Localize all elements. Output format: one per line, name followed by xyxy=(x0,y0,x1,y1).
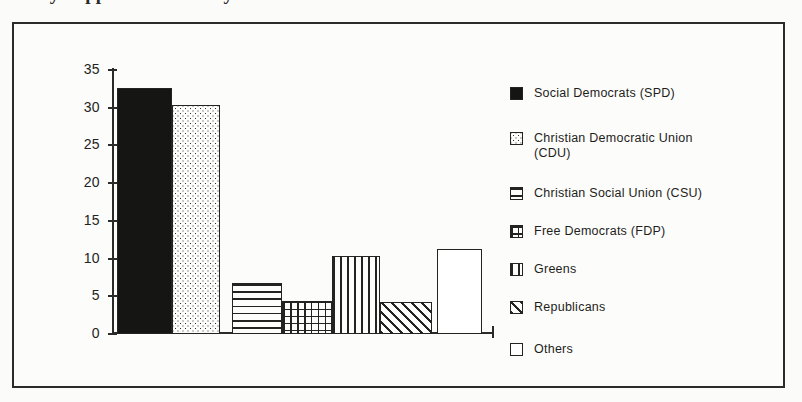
legend-item-label: Greens xyxy=(534,262,577,277)
legend-item-label: Republicans xyxy=(534,300,606,315)
bar-solid xyxy=(117,88,172,334)
page-title-text: Party Support in Germany xyxy=(14,0,233,5)
bar-white xyxy=(437,249,482,334)
legend-item-label: Christian Democratic Union (CDU) xyxy=(534,131,693,161)
bar-grid xyxy=(282,301,332,334)
legend-item-label: Free Democrats (FDP) xyxy=(534,224,665,239)
legend-item-label: Christian Social Union (CSU) xyxy=(534,186,702,201)
legend-swatch-solid-icon xyxy=(510,87,523,100)
legend-item[interactable]: Republicans xyxy=(510,300,606,315)
page-title-remnant: Party Support in Germany xyxy=(0,0,802,20)
legend-item-label: Others xyxy=(534,342,573,357)
y-axis-tick xyxy=(108,69,117,71)
legend-swatch-white-icon xyxy=(510,343,523,356)
legend-swatch-hlines-icon xyxy=(510,187,523,200)
legend-item[interactable]: Christian Democratic Union (CDU) xyxy=(510,131,693,161)
legend-item[interactable]: Free Democrats (FDP) xyxy=(510,224,665,239)
legend-item[interactable]: Others xyxy=(510,342,573,357)
legend-item[interactable]: Greens xyxy=(510,262,577,277)
bar-diag xyxy=(380,302,432,334)
y-axis-tick-label: 5 xyxy=(54,287,100,303)
legend-swatch-diag-icon xyxy=(510,301,523,314)
y-axis-tick xyxy=(108,144,117,146)
y-axis-tick xyxy=(108,295,117,297)
y-axis-tick-label: 0 xyxy=(54,325,100,341)
y-axis-tick xyxy=(108,220,117,222)
legend-swatch-vlines-icon xyxy=(510,263,523,276)
bar-hlines xyxy=(232,283,282,334)
legend-item[interactable]: Christian Social Union (CSU) xyxy=(510,186,702,201)
y-axis-tick xyxy=(108,258,117,260)
legend-swatch-dotted-icon xyxy=(510,132,523,145)
y-axis-tick xyxy=(108,333,117,335)
y-axis-tick-label: 10 xyxy=(54,250,100,266)
y-axis-tick-label: 20 xyxy=(54,174,100,190)
y-axis-tick-label: 15 xyxy=(54,212,100,228)
bar-dotted xyxy=(172,105,220,334)
y-axis-tick-label: 30 xyxy=(54,99,100,115)
x-axis-end-tick xyxy=(492,326,494,338)
y-axis-tick-label: 25 xyxy=(54,136,100,152)
y-axis-tick xyxy=(108,107,117,109)
chart-frame: 35302520151050 Social Democrats (SPD)Chr… xyxy=(12,22,785,388)
bar-vlines xyxy=(332,256,380,334)
legend-item[interactable]: Social Democrats (SPD) xyxy=(510,86,675,101)
y-axis-tick xyxy=(108,182,117,184)
plot-area: 35302520151050 Social Democrats (SPD)Chr… xyxy=(14,24,787,390)
legend-item-label: Social Democrats (SPD) xyxy=(534,86,675,101)
legend-swatch-grid-icon xyxy=(510,225,523,238)
y-axis-tick-label: 35 xyxy=(54,61,100,77)
